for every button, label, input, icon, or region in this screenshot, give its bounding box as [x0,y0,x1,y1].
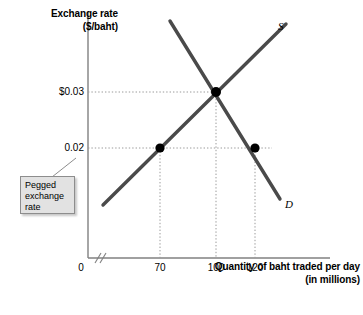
marker-equilibrium [211,87,221,97]
supply-curve [103,24,286,205]
supply-curve-label: S [278,20,284,32]
marker-supply-at-pegged-rate [155,143,164,152]
y-axis-tick-label-003: $0.03 [36,86,84,97]
callout-label: Pegged exchange rate [25,180,75,213]
pegged-exchange-rate-callout: Pegged exchange rate [20,176,75,214]
demand-curve-label: D [285,198,293,210]
y-axis-title: Exchange rate ($/baht) [14,8,118,33]
callout-leader-line [52,158,76,177]
exchange-rate-supply-demand-figure: Exchange rate ($/baht) $0.03 0.02 0 70 1… [0,0,363,315]
y-axis-tick-label-002: 0.02 [36,142,84,153]
marker-demand-at-pegged-rate [250,143,259,152]
x-axis-title: Quantity of baht traded per day (in mill… [205,261,360,286]
x-axis-tick-label-70: 70 [145,262,175,273]
x-axis-tick-label-0: 0 [66,262,96,273]
